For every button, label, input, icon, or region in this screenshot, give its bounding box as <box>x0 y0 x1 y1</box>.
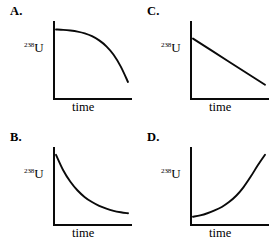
graph-options-figure: A. 238U time C. 238U time B. 238U time D… <box>0 0 274 252</box>
panel-d-axes <box>191 148 268 225</box>
panel-c-curve <box>193 39 265 85</box>
panel-d: D. 238U time <box>137 126 274 252</box>
panel-a: A. 238U time <box>0 0 137 126</box>
panel-c-plot <box>137 0 274 126</box>
panel-b: B. 238U time <box>0 126 137 252</box>
panel-a-axes <box>54 22 131 99</box>
panel-b-x-axis-label: time <box>72 227 94 240</box>
panel-b-curve <box>56 155 128 213</box>
panel-d-curve <box>193 155 265 217</box>
panel-b-plot <box>0 126 137 252</box>
panel-a-curve <box>56 30 128 83</box>
panel-c: C. 238U time <box>137 0 274 126</box>
panel-c-x-axis-label: time <box>209 101 231 114</box>
panel-b-axes <box>54 148 131 225</box>
panel-d-x-axis-label: time <box>209 227 231 240</box>
panel-d-plot <box>137 126 274 252</box>
panel-c-axes <box>191 22 268 99</box>
panel-a-plot <box>0 0 137 126</box>
panel-a-x-axis-label: time <box>72 101 94 114</box>
